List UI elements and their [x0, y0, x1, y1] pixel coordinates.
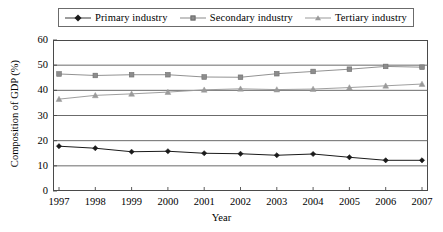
y-tick-label: 40 — [22, 85, 48, 95]
data-point — [311, 151, 316, 156]
data-point — [383, 158, 388, 163]
chart-figure: Primary industry Secondary industry Tert… — [0, 0, 443, 232]
data-point — [93, 73, 98, 78]
y-axis-title: Composition of GDP (%) — [9, 44, 20, 184]
data-point — [311, 69, 316, 74]
data-point — [347, 155, 352, 160]
y-tick-label: 20 — [22, 136, 48, 146]
data-point — [166, 72, 171, 77]
data-point — [420, 65, 425, 70]
data-point — [274, 153, 279, 158]
data-point — [165, 149, 170, 154]
data-point — [202, 151, 207, 156]
data-point — [419, 158, 424, 163]
data-point — [202, 75, 207, 80]
data-point — [238, 75, 243, 80]
y-tick-label: 10 — [22, 161, 48, 171]
x-axis-title: Year — [0, 212, 443, 223]
y-tick-label: 30 — [22, 111, 48, 121]
data-point — [238, 151, 243, 156]
data-point — [57, 72, 62, 77]
data-point — [129, 72, 134, 77]
plot-canvas — [53, 40, 428, 191]
data-point — [275, 71, 280, 76]
plot-area — [53, 40, 428, 191]
data-point — [383, 64, 388, 69]
y-tick-label: 60 — [22, 35, 48, 45]
data-point — [129, 149, 134, 154]
y-tick-label: 50 — [22, 60, 48, 70]
y-tick-label: 0 — [22, 186, 48, 196]
data-point — [56, 144, 61, 149]
data-point — [347, 67, 352, 72]
x-tick-label: 2007 — [400, 196, 443, 207]
data-point — [93, 146, 98, 151]
